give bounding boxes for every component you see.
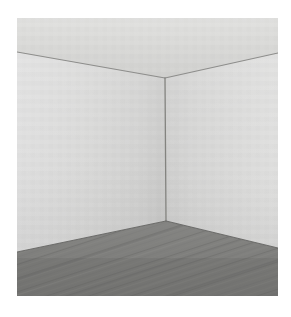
right-wall-surface <box>165 53 278 248</box>
ceiling-corner-apex <box>163 76 167 80</box>
screenshot-canvas <box>0 0 291 317</box>
left-wall-surface <box>17 52 166 252</box>
floor-corner-vertex <box>164 219 168 223</box>
room-corner-illustration <box>17 18 278 296</box>
room-scene-svg <box>17 18 278 296</box>
